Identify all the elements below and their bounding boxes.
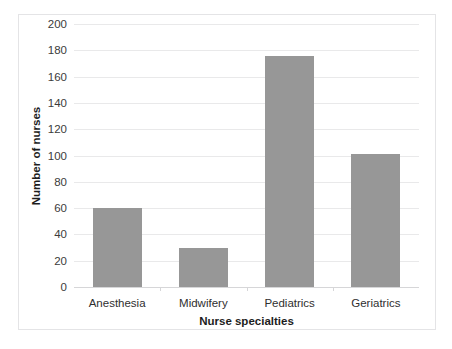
- y-axis-tick-label: 120: [48, 123, 67, 135]
- y-axis-title-label: Number of nurses: [30, 106, 42, 204]
- plot-area: 020406080100120140160180200 AnesthesiaMi…: [74, 24, 419, 287]
- x-axis-tick-label: Pediatrics: [264, 297, 315, 309]
- gridline: [74, 50, 419, 51]
- y-axis-tick-label: 60: [54, 202, 67, 214]
- y-axis-tick-label: 80: [54, 176, 67, 188]
- y-axis-tick-label: 20: [54, 255, 67, 267]
- clipped-caption-text: [0, 0, 452, 4]
- bar: [265, 56, 314, 287]
- y-axis-tick-label: 180: [48, 44, 67, 56]
- x-axis-title: Nurse specialties: [74, 315, 419, 327]
- x-axis-tick-label: Anesthesia: [89, 297, 146, 309]
- bar: [351, 154, 400, 287]
- x-axis-tick-label: Midwifery: [179, 297, 228, 309]
- y-axis-tick-label: 160: [48, 71, 67, 83]
- y-axis-tick-label: 140: [48, 97, 67, 109]
- gridline: [74, 103, 419, 104]
- bar: [93, 208, 142, 287]
- gridline: [74, 24, 419, 25]
- x-axis-tickmark: [333, 287, 334, 291]
- gridline: [74, 77, 419, 78]
- gridline: [74, 129, 419, 130]
- y-axis-tick-label: 200: [48, 18, 67, 30]
- y-axis-tick-label: 40: [54, 228, 67, 240]
- chart-frame: Number of nurses 02040608010012014016018…: [18, 14, 436, 330]
- y-axis-title: Number of nurses: [28, 24, 44, 287]
- x-axis-tickmark: [247, 287, 248, 291]
- y-axis-tick-label: 100: [48, 150, 67, 162]
- x-axis-tick-label: Geriatrics: [351, 297, 400, 309]
- bar: [179, 248, 228, 287]
- x-axis-tickmark: [160, 287, 161, 291]
- y-axis-tick-label: 0: [61, 281, 67, 293]
